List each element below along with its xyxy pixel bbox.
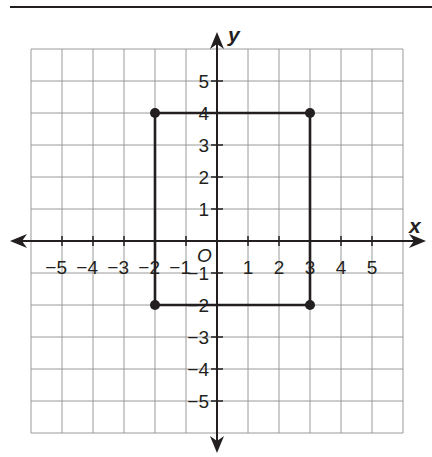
origin-label: O bbox=[197, 245, 212, 266]
x-tick-label: 5 bbox=[367, 257, 378, 278]
x-tick-label: −2 bbox=[138, 257, 160, 278]
x-axis-label: x bbox=[408, 214, 422, 237]
y-tick-label: −2 bbox=[187, 295, 209, 316]
y-tick-label: 3 bbox=[198, 135, 209, 156]
coordinate-plane-figure: −5−4−3−2−11234554321−1−2−3−4−5 x y O bbox=[0, 0, 432, 457]
y-tick-label: −1 bbox=[187, 263, 209, 284]
x-tick-label: −4 bbox=[76, 257, 98, 278]
y-tick-label: 5 bbox=[198, 71, 209, 92]
x-tick-label: −3 bbox=[107, 257, 129, 278]
vertex-point bbox=[305, 108, 315, 118]
axes bbox=[10, 32, 426, 453]
y-axis-label: y bbox=[227, 23, 241, 46]
y-tick-label: 4 bbox=[198, 103, 209, 124]
x-tick-label: 3 bbox=[305, 257, 316, 278]
y-tick-label: −4 bbox=[187, 359, 209, 380]
x-tick-label: 4 bbox=[336, 257, 347, 278]
y-tick-label: −3 bbox=[187, 327, 209, 348]
coordinate-plane: −5−4−3−2−11234554321−1−2−3−4−5 x y O bbox=[0, 0, 432, 457]
x-tick-label: 2 bbox=[274, 257, 285, 278]
y-tick-label: 1 bbox=[198, 199, 209, 220]
x-tick-label: −5 bbox=[45, 257, 67, 278]
vertex-point bbox=[150, 300, 160, 310]
y-tick-label: 2 bbox=[198, 167, 209, 188]
x-tick-label: 1 bbox=[243, 257, 254, 278]
vertex-point bbox=[305, 300, 315, 310]
y-tick-label: −5 bbox=[187, 391, 209, 412]
vertex-point bbox=[150, 108, 160, 118]
